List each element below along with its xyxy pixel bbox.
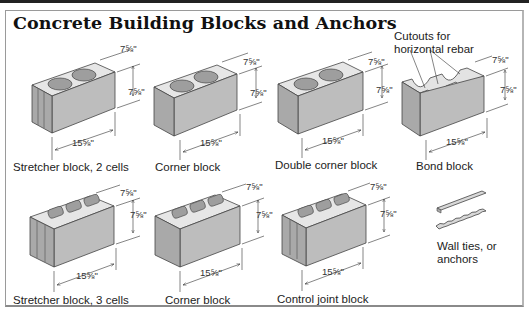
bond-cutouts-line1: Cutouts for	[394, 30, 474, 43]
dim-width: 7⅝"	[368, 56, 385, 67]
wall-ties-label: Wall ties, or anchors	[437, 240, 497, 266]
wall-ties-drawing	[436, 191, 486, 229]
dim-height: 7⅝"	[250, 87, 267, 98]
bond-block-drawing: 7⅝" 7⅝" 15⅝"	[402, 50, 517, 160]
dim-length: 15⅝"	[446, 136, 468, 147]
dim-height: 7⅝"	[500, 84, 517, 95]
dim-width: 7⅝"	[492, 54, 509, 65]
wall-ties-line1: Wall ties, or	[437, 240, 497, 253]
dim-width: 7⅝"	[370, 181, 387, 192]
dim-height: 7⅝"	[256, 209, 273, 220]
bond-cutouts-note: Cutouts for horizontal rebar	[394, 30, 474, 56]
corner-block-3-cells-drawing: 7⅝" 7⅝" 15⅝"	[155, 181, 273, 292]
block-label-control-joint: Control joint block	[277, 293, 368, 305]
dim-height: 7⅝"	[128, 86, 145, 97]
control-joint-block-drawing: 7⅝" 7⅝" 15⅝"	[282, 181, 397, 291]
dim-width: 7⅝"	[246, 181, 263, 192]
block-label-corner-2: Corner block	[155, 161, 220, 173]
dim-width: 7⅝"	[120, 187, 137, 198]
block-label-corner-3: Corner block	[165, 294, 230, 306]
double-corner-block-drawing: 7⅝" 7⅝" 15⅝"	[278, 52, 393, 158]
dim-length: 15⅝"	[200, 267, 222, 278]
dim-length: 15⅝"	[322, 135, 344, 146]
dim-length: 15⅝"	[72, 137, 94, 148]
wall-ties-line2: anchors	[437, 253, 497, 266]
dim-width: 7⅝"	[120, 43, 137, 54]
dim-length: 15⅝"	[322, 266, 344, 277]
block-label-stretcher-2: Stretcher block, 2 cells	[13, 161, 129, 173]
dim-length: 15⅝"	[200, 137, 222, 148]
stretcher-block-2-cells-drawing: 7⅝" 7⅝" 15⅝"	[32, 43, 145, 160]
dim-height: 7⅝"	[380, 208, 397, 219]
block-label-stretcher-3: Stretcher block, 3 cells	[13, 294, 129, 306]
block-label-double-corner: Double corner block	[275, 159, 377, 171]
dim-length: 15⅝"	[76, 270, 98, 281]
dim-height: 7⅝"	[130, 209, 147, 220]
corner-block-2-cells-drawing: 7⅝" 7⅝" 15⅝"	[154, 53, 267, 160]
block-label-bond: Bond block	[416, 160, 473, 172]
dim-width: 7⅝"	[243, 56, 260, 67]
bond-cutouts-line2: horizontal rebar	[394, 43, 474, 56]
stretcher-block-3-cells-drawing: 7⅝" 7⅝" 15⅝"	[30, 185, 147, 292]
dim-height: 7⅝"	[376, 84, 393, 95]
